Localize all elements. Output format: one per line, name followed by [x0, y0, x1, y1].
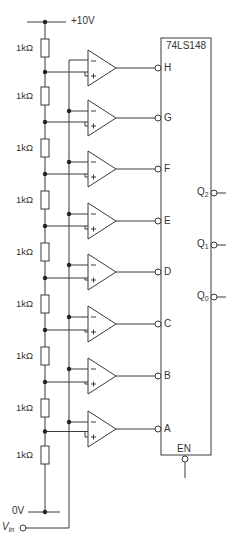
comparator — [88, 306, 116, 342]
resistor-label: 1kΩ — [16, 246, 33, 257]
resistor — [41, 295, 49, 313]
comparator — [88, 411, 116, 447]
resistor-label: 1kΩ — [16, 42, 33, 53]
resistor — [41, 399, 49, 417]
comparator — [88, 151, 116, 187]
resistor-label: 1kΩ — [16, 194, 33, 205]
resistor — [41, 243, 49, 261]
output-label: Q — [197, 290, 205, 301]
vin-label-sub: in — [9, 526, 14, 533]
resistor-label: 1kΩ — [16, 402, 33, 413]
comparator — [88, 50, 116, 86]
resistor — [41, 446, 49, 464]
output-label: Q — [197, 186, 205, 197]
resistor-label: 1kΩ — [16, 298, 33, 309]
output-sub: 2 — [205, 191, 209, 198]
vin-label: Vin — [2, 521, 14, 533]
ic-output-q1: Q1 — [197, 238, 209, 250]
resistor — [41, 87, 49, 105]
resistor — [41, 139, 49, 157]
ic-input-g: G — [164, 112, 172, 123]
ic-input-f: F — [164, 163, 170, 174]
comparator — [88, 100, 116, 136]
output-sub: 1 — [205, 243, 209, 250]
ic-input-c: C — [164, 318, 171, 329]
resistor — [41, 347, 49, 365]
ic-input-d: D — [164, 266, 171, 277]
resistor — [41, 191, 49, 209]
resistor-label: 1kΩ — [16, 90, 33, 101]
resistor-label: 1kΩ — [16, 142, 33, 153]
ic-input-h: H — [164, 62, 171, 73]
vin-label-main: V — [2, 521, 9, 532]
ic-output-q2: Q2 — [197, 186, 209, 198]
resistor-label: 1kΩ — [16, 449, 33, 460]
comparator-encoder-schematic — [0, 0, 239, 541]
ic-output-q0: Q0 — [197, 290, 209, 302]
supply-top-label: +10V — [71, 15, 95, 26]
comparator — [88, 203, 116, 239]
resistor-label: 1kΩ — [16, 350, 33, 361]
supply-bottom-label: 0V — [12, 505, 24, 516]
output-label: Q — [197, 238, 205, 249]
ic-enable-label: EN — [177, 443, 191, 454]
ic-input-b: B — [164, 370, 171, 381]
comparator — [88, 254, 116, 290]
ic-name: 74LS148 — [166, 40, 206, 51]
ic-input-e: E — [164, 215, 171, 226]
ic-input-a: A — [164, 423, 171, 434]
output-sub: 0 — [205, 295, 209, 302]
resistor — [41, 39, 49, 57]
comparator — [88, 358, 116, 394]
